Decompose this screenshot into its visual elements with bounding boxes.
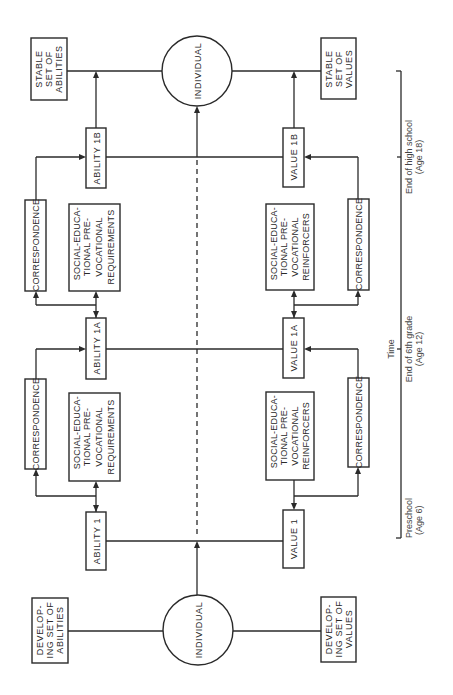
svg-text:VOCATIONAL: VOCATIONAL	[290, 217, 300, 276]
svg-text:ABILITY 1B: ABILITY 1B	[92, 132, 102, 185]
svg-text:VOCATIONAL: VOCATIONAL	[94, 407, 104, 466]
svg-text:SET OF: SET OF	[334, 51, 344, 87]
tick-preschool-label: Preschool	[404, 498, 414, 538]
svg-text:TIONAL PRE-: TIONAL PRE-	[279, 407, 289, 465]
svg-text:SOCIAL-EDUCA-: SOCIAL-EDUCA-	[269, 395, 279, 468]
correspondence-box-values-upper: CORRESPONDENCE	[348, 198, 369, 290]
requirements-box-lower: SOCIAL-EDUCA- TIONAL PRE- VOCATIONAL REQ…	[69, 393, 120, 481]
svg-text:CORRESPONDENCE: CORRESPONDENCE	[31, 378, 41, 470]
timeline-axis-label: Time	[386, 339, 396, 359]
ability-1a-box: ABILITY 1A	[86, 318, 106, 379]
correspondence-box-values-lower: CORRESPONDENCE	[348, 376, 369, 468]
svg-text:STABLE: STABLE	[34, 50, 44, 87]
svg-text:REINFORCERS: REINFORCERS	[301, 402, 311, 470]
svg-text:TIONAL PRE-: TIONAL PRE-	[82, 218, 92, 276]
reinforcers-box-lower: SOCIAL-EDUCA- TIONAL PRE- VOCATIONAL REI…	[266, 392, 314, 480]
correspondence-box-abilities-lower: CORRESPONDENCE	[25, 378, 46, 470]
value-1b-box: VALUE 1B	[283, 128, 304, 187]
tick-high-school-label: End of high school	[404, 120, 414, 194]
tick-preschool-age: (Age 6)	[414, 505, 424, 535]
svg-text:SOCIAL-EDUCA-: SOCIAL-EDUCA-	[72, 396, 82, 469]
svg-text:CORRESPONDENCE: CORRESPONDENCE	[354, 376, 364, 468]
svg-text:ING SET OF: ING SET OF	[334, 601, 344, 658]
svg-text:ABILITY 1: ABILITY 1	[92, 518, 102, 564]
individual-circle-top: INDIVIDUAL	[162, 36, 232, 106]
svg-text:VALUES: VALUES	[344, 610, 354, 648]
svg-text:CORRESPONDENCE: CORRESPONDENCE	[31, 199, 41, 291]
stable-abilities-box: STABLE SET OF ABILITIES	[31, 38, 67, 100]
svg-text:VALUE 1B: VALUE 1B	[289, 133, 299, 180]
svg-text:REINFORCERS: REINFORCERS	[301, 213, 311, 281]
svg-text:DEVELOP-: DEVELOP-	[324, 604, 334, 654]
svg-text:ABILITY 1A: ABILITY 1A	[92, 322, 102, 375]
svg-text:SET OF: SET OF	[44, 51, 54, 87]
svg-text:ABILITIES: ABILITIES	[54, 45, 64, 92]
svg-text:SOCIAL-EDUCA-: SOCIAL-EDUCA-	[269, 207, 279, 280]
svg-text:CORRESPONDENCE: CORRESPONDENCE	[354, 198, 364, 290]
individual-circle-bottom: INDIVIDUAL	[163, 595, 233, 665]
tick-6th-grade-age: (Age 12)	[414, 332, 424, 367]
svg-text:VALUE 1A: VALUE 1A	[289, 324, 299, 371]
svg-text:SOCIAL-EDUCA-: SOCIAL-EDUCA-	[72, 207, 82, 280]
svg-text:TIONAL PRE-: TIONAL PRE-	[82, 408, 92, 466]
value-1-box: VALUE 1	[283, 510, 304, 568]
svg-text:VALUE 1: VALUE 1	[289, 519, 299, 560]
timeline: Time End of high school (Age 18) End of …	[386, 71, 424, 538]
individual-top-label: INDIVIDUAL	[193, 43, 203, 100]
svg-text:REQUIREMENTS: REQUIREMENTS	[106, 210, 116, 285]
value-1a-box: VALUE 1A	[283, 318, 304, 378]
svg-text:TIONAL PRE-: TIONAL PRE-	[279, 218, 289, 276]
requirements-box-upper: SOCIAL-EDUCA- TIONAL PRE- VOCATIONAL REQ…	[69, 204, 120, 291]
stable-values-box: STABLE SET OF VALUES	[321, 38, 356, 99]
tick-6th-grade-label: End of 6th grade	[404, 316, 414, 383]
individual-bottom-label: INDIVIDUAL	[194, 602, 204, 659]
svg-text:DEVELOP-: DEVELOP-	[35, 605, 45, 655]
svg-text:STABLE: STABLE	[324, 50, 334, 87]
svg-text:VALUES: VALUES	[344, 50, 354, 88]
svg-text:VOCATIONAL: VOCATIONAL	[290, 406, 300, 465]
reinforcers-box-upper: SOCIAL-EDUCA- TIONAL PRE- VOCATIONAL REI…	[266, 204, 314, 290]
tick-high-school-age: (Age 18)	[414, 140, 424, 175]
ability-1b-box: ABILITY 1B	[86, 128, 106, 188]
svg-text:ABILITIES: ABILITIES	[55, 606, 65, 653]
developing-values-box: DEVELOP- ING SET OF VALUES	[321, 597, 356, 662]
developing-abilities-box: DEVELOP- ING SET OF ABILITIES	[32, 598, 68, 663]
svg-text:VOCATIONAL: VOCATIONAL	[94, 217, 104, 276]
svg-text:REQUIREMENTS: REQUIREMENTS	[106, 400, 116, 475]
ability-1-box: ABILITY 1	[86, 512, 106, 570]
theory-of-work-adjustment-diagram: INDIVIDUAL INDIVIDUAL STABLE SET OF ABIL…	[0, 0, 453, 695]
svg-text:ING SET OF: ING SET OF	[45, 602, 55, 659]
correspondence-box-abilities-upper: CORRESPONDENCE	[25, 199, 46, 291]
